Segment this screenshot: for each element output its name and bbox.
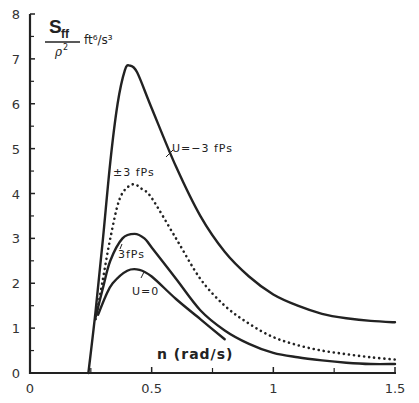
x-tick-label: 0 — [26, 381, 34, 396]
y-tick-label: 3 — [12, 231, 20, 246]
y-tick-label: 0 — [12, 366, 20, 381]
x-tick-label: 1.5 — [385, 381, 406, 396]
y-tick-label: 5 — [12, 142, 20, 157]
annotation-u-neg3: U=−3 fPs — [172, 142, 233, 155]
annotation-3fps: 3fPs — [118, 248, 145, 261]
y-label-unit: ft⁶/s³ — [84, 33, 113, 47]
y-axis-label: S ff ρ 2 ft⁶/s³ — [45, 16, 113, 59]
curve-u-0-3 — [98, 269, 225, 339]
annotation-pm3: ±3 fPs — [113, 166, 155, 179]
y-tick-label: 2 — [12, 276, 20, 291]
x-tick-label: 1 — [269, 381, 277, 396]
y-tick-label: 4 — [12, 187, 20, 202]
y-tick-label: 8 — [12, 7, 20, 22]
curve-u-3-fps-0 — [88, 65, 395, 373]
y-tick-label: 7 — [12, 52, 20, 67]
y-label-rho-exponent: 2 — [63, 43, 68, 52]
x-tick-label: 0.5 — [141, 381, 162, 396]
annotation-u0: U=0 — [132, 285, 159, 298]
x-axis-ticks: 00.511.5 — [26, 367, 405, 396]
curves — [88, 65, 395, 373]
y-axis-ticks: 012345678 — [12, 7, 35, 381]
leader-u0 — [141, 272, 144, 278]
y-label-s: S — [49, 16, 62, 37]
y-label-rho: ρ — [54, 45, 62, 59]
spectrum-chart: 012345678 00.511.5 S ff ρ 2 ft⁶/s³ U=−3 … — [0, 0, 419, 403]
y-label-subscript: ff — [61, 27, 70, 41]
y-tick-label: 1 — [12, 321, 20, 336]
x-axis-label: n (rad/s) — [157, 346, 233, 362]
y-tick-label: 6 — [12, 97, 20, 112]
